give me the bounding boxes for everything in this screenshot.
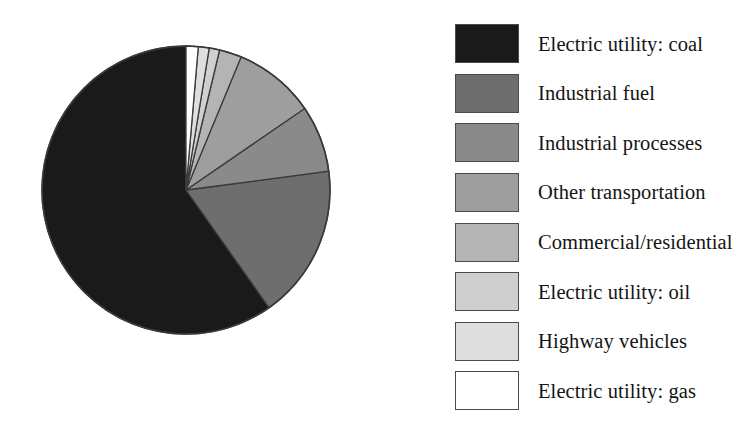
legend-item-label: Other transportation bbox=[538, 182, 706, 203]
legend-item-electric-utility-gas[interactable]: Electric utility: gas bbox=[400, 366, 754, 416]
legend-swatch-icon bbox=[455, 322, 519, 361]
legend-swatch-icon bbox=[455, 123, 519, 162]
legend-item-label: Industrial fuel bbox=[538, 83, 655, 104]
legend-item-label: Electric utility: coal bbox=[538, 34, 703, 55]
legend-item-electric-utility-coal[interactable]: Electric utility: coal bbox=[400, 19, 754, 69]
legend-swatch-icon bbox=[455, 371, 519, 410]
legend-swatch-icon bbox=[455, 223, 519, 262]
legend-item-label: Electric utility: oil bbox=[538, 282, 690, 303]
legend-item-highway-vehicles[interactable]: Highway vehicles bbox=[400, 317, 754, 367]
legend-item-commercial-residential[interactable]: Commercial/residential bbox=[400, 217, 754, 267]
pie-chart-plot-area bbox=[0, 0, 400, 445]
legend-item-electric-utility-oil[interactable]: Electric utility: oil bbox=[400, 267, 754, 317]
legend-swatch-icon bbox=[455, 272, 519, 311]
legend-swatch-icon bbox=[455, 24, 519, 63]
legend-item-industrial-fuel[interactable]: Industrial fuel bbox=[400, 69, 754, 119]
legend-item-label: Electric utility: gas bbox=[538, 381, 696, 402]
legend-item-label: Highway vehicles bbox=[538, 331, 687, 352]
legend-item-label: Commercial/residential bbox=[538, 232, 733, 253]
legend-item-industrial-processes[interactable]: Industrial processes bbox=[400, 118, 754, 168]
legend-item-other-transportation[interactable]: Other transportation bbox=[400, 168, 754, 218]
legend-item-label: Industrial processes bbox=[538, 133, 702, 154]
legend-swatch-icon bbox=[455, 74, 519, 113]
legend-swatch-icon bbox=[455, 173, 519, 212]
chart-legend: Electric utility: coal Industrial fuel I… bbox=[400, 0, 754, 445]
pie-chart-figure: Electric utility: coal Industrial fuel I… bbox=[0, 0, 754, 445]
pie-chart-svg bbox=[0, 0, 400, 445]
